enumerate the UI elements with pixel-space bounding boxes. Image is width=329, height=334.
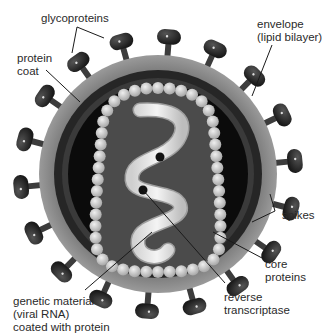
label-glycoproteins: glycoproteins	[41, 12, 109, 25]
label-core-proteins: core proteins	[265, 258, 306, 284]
core-protein-bead	[117, 264, 129, 276]
core-protein-bead	[92, 173, 104, 185]
core-protein-bead	[211, 162, 223, 174]
core-protein-bead	[90, 208, 102, 220]
core-protein-bead	[140, 266, 152, 278]
core-protein-bead	[97, 253, 109, 265]
core-protein-bead	[175, 85, 187, 97]
core-protein-bead	[94, 150, 106, 162]
core-protein-bead	[187, 264, 199, 276]
core-protein-bead	[213, 185, 225, 197]
virus-diagram: glycoproteins protein coat envelope (lip…	[0, 0, 329, 334]
core-protein-bead	[89, 220, 101, 232]
core-protein-bead	[152, 266, 164, 278]
core-protein-bead	[97, 115, 109, 127]
core-protein-bead	[198, 260, 210, 272]
core-protein-bead	[91, 243, 103, 255]
label-protein-coat: protein coat	[17, 52, 52, 78]
core-protein-bead	[90, 232, 102, 244]
core-protein-bead	[212, 173, 224, 185]
core-protein-bead	[207, 115, 219, 127]
core-protein-bead	[118, 89, 130, 101]
core-protein-bead	[175, 265, 187, 277]
core-protein-bead	[213, 243, 225, 255]
core-protein-bead	[214, 197, 226, 209]
label-spikes: spikes	[282, 209, 315, 222]
core-protein-bead	[90, 197, 102, 209]
core-protein-bead	[129, 265, 141, 277]
core-protein-bead	[210, 150, 222, 162]
core-protein-bead	[96, 127, 108, 139]
core-protein-bead	[164, 266, 176, 278]
label-reverse-transcriptase: reverse transcriptase	[224, 291, 290, 317]
label-genetic-material: genetic material (viral RNA) coated with…	[13, 295, 110, 334]
core-protein-bead	[209, 139, 221, 151]
core-protein-bead	[152, 82, 164, 94]
core-protein-bead	[208, 127, 220, 139]
core-protein-bead	[129, 85, 141, 97]
core-protein-bead	[95, 139, 107, 151]
label-envelope: envelope (lipid bilayer)	[257, 18, 322, 44]
core-protein-bead	[203, 104, 215, 116]
reverse-transcriptase-molecule	[156, 153, 165, 162]
core-protein-bead	[164, 83, 176, 95]
core-protein-bead	[215, 220, 227, 232]
core-protein-bead	[140, 83, 152, 95]
core-protein-bead	[93, 162, 105, 174]
core-protein-bead	[214, 208, 226, 220]
core-protein-bead	[91, 185, 103, 197]
